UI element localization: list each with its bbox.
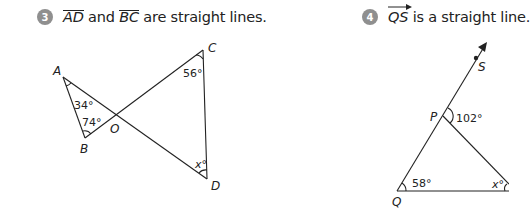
label-q: Q — [392, 195, 401, 209]
angle-r: x° — [491, 178, 504, 191]
label-s: S — [478, 60, 486, 74]
angle-q: 58° — [412, 177, 432, 190]
angle-p-exterior: 102° — [456, 112, 483, 125]
label-p: P — [430, 110, 438, 124]
